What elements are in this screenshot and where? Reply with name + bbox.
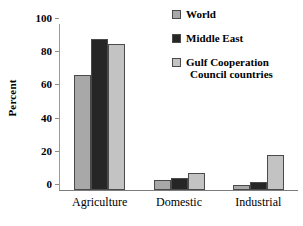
legend-swatch-gcc xyxy=(172,58,181,67)
bar xyxy=(233,185,250,190)
x-category-label: Domestic xyxy=(139,193,218,211)
bar xyxy=(91,39,108,190)
bar-chart-figure: Percent 020406080100 AgricultureDomestic… xyxy=(0,0,303,226)
x-axis-category-labels: AgricultureDomesticIndustrial xyxy=(60,193,298,215)
x-axis-line xyxy=(59,190,298,191)
y-tick-label: 40 xyxy=(18,112,52,123)
legend-swatch-world xyxy=(172,10,181,19)
bar xyxy=(154,180,171,190)
bar xyxy=(250,182,267,190)
bar xyxy=(267,155,284,190)
legend-label-gcc-line1: Gulf Cooperation xyxy=(186,56,302,68)
x-category-label: Industrial xyxy=(219,193,298,211)
y-tick-label: 20 xyxy=(18,145,52,156)
y-tick-label: 100 xyxy=(18,13,52,24)
y-axis-label: Percent xyxy=(6,79,18,116)
bar xyxy=(188,173,205,190)
chart-legend: World Middle East Gulf Cooperation Counc… xyxy=(172,8,302,92)
legend-label-world: World xyxy=(186,8,302,20)
y-tick-label: 0 xyxy=(18,179,52,190)
y-tick-mark xyxy=(55,18,59,19)
x-category-label: Agriculture xyxy=(60,193,139,211)
bar-group xyxy=(74,24,125,190)
legend-label-middle-east: Middle East xyxy=(186,32,302,44)
legend-item-middle-east: Middle East xyxy=(172,32,302,45)
y-tick-label: 60 xyxy=(18,79,52,90)
legend-swatch-middle-east xyxy=(172,34,181,43)
bar xyxy=(171,178,188,190)
bar xyxy=(108,44,125,190)
y-tick-label: 80 xyxy=(18,46,52,57)
legend-item-gcc: Gulf Cooperation Council countries xyxy=(172,56,302,81)
y-axis-tick-labels: 020406080100 xyxy=(18,18,52,190)
bar xyxy=(74,75,91,190)
legend-label-gcc-line2: Council countries xyxy=(186,68,302,81)
legend-item-world: World xyxy=(172,8,302,21)
